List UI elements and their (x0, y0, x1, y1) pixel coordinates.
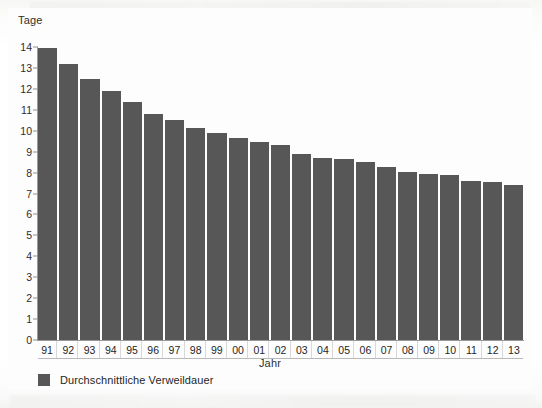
bar (419, 174, 438, 340)
x-axis-title: Jahr (8, 357, 532, 369)
bar (102, 91, 121, 340)
x-axis-tick-label: 06 (356, 341, 375, 358)
x-axis-tick-label: 07 (378, 341, 397, 358)
x-axis-tick-label: 08 (399, 341, 418, 358)
bar (186, 128, 205, 340)
bar (250, 142, 269, 340)
bar (292, 154, 311, 340)
x-axis-tick-label: 99 (208, 341, 227, 358)
bar (165, 120, 184, 340)
bar (313, 158, 332, 340)
bar (398, 172, 417, 340)
x-axis-tick-label: 12 (484, 341, 503, 358)
bar (334, 159, 353, 340)
x-axis-tick-label: 02 (271, 341, 290, 358)
scan-artifact-bottom (10, 395, 535, 407)
chart-container: Tage 01234567891011121314 91929394959697… (8, 8, 532, 390)
bar (271, 145, 290, 340)
x-axis-tick-label: 96 (144, 341, 163, 358)
x-axis-tick-label: 92 (59, 341, 78, 358)
bar (504, 185, 523, 340)
bar-series (38, 47, 523, 340)
x-axis-tick-label: 97 (165, 341, 184, 358)
bar (356, 162, 375, 340)
y-axis-title: Tage (18, 14, 43, 26)
bar (483, 182, 502, 340)
bar (38, 48, 57, 340)
legend-color-swatch (38, 374, 50, 386)
x-axis-tick-label: 03 (293, 341, 312, 358)
legend-label: Durchschnittliche Verweildauer (60, 374, 213, 386)
x-axis-tick-label: 91 (38, 341, 57, 358)
x-axis-tick-label: 95 (123, 341, 142, 358)
x-axis-tick-label: 11 (462, 341, 481, 358)
x-axis-tick-label: 09 (420, 341, 439, 358)
x-axis-tick-label: 00 (229, 341, 248, 358)
x-axis-tick-label: 10 (441, 341, 460, 358)
bar (229, 138, 248, 340)
x-axis-tick-label: 98 (187, 341, 206, 358)
x-axis-tick-label: 01 (250, 341, 269, 358)
x-axis-tick-label: 05 (335, 341, 354, 358)
bar (461, 181, 480, 340)
chart-legend: Durchschnittliche Verweildauer (38, 374, 213, 386)
bar (59, 64, 78, 340)
bar (377, 167, 396, 340)
x-axis-tick-label: 93 (80, 341, 99, 358)
bar (207, 133, 226, 340)
bar (80, 79, 99, 340)
bar (144, 114, 163, 340)
x-axis-tick-label: 94 (102, 341, 121, 358)
bar (440, 175, 459, 340)
bar (123, 102, 142, 340)
x-axis-tick-label: 04 (314, 341, 333, 358)
x-axis-tick-label: 13 (505, 341, 523, 358)
plot-area: 01234567891011121314 (38, 47, 523, 340)
page-background: Tage 01234567891011121314 91929394959697… (0, 0, 542, 408)
